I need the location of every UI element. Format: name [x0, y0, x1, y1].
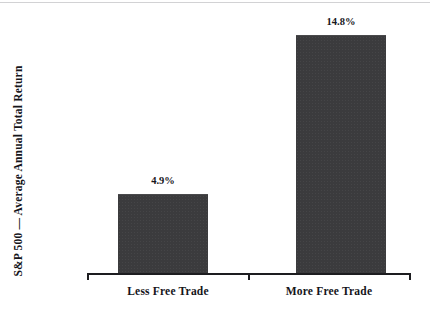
bar-value-label-less-free-trade: 4.9% [118, 175, 208, 186]
bar-more-free-trade [296, 35, 386, 274]
x-axis-tick-middle [248, 273, 250, 280]
x-axis-tick-left [87, 273, 89, 280]
bar-less-free-trade [118, 194, 208, 274]
x-axis-label-less-free-trade: Less Free Trade [88, 285, 248, 297]
bar-value-label-more-free-trade: 14.8% [296, 16, 386, 27]
x-axis-label-more-free-trade: More Free Trade [249, 285, 409, 297]
x-axis-tick-right [409, 273, 411, 280]
plot-area: 4.9% 14.8% Less Free Trade More Free Tra… [0, 0, 430, 315]
bar-chart-figure: S&P 500 — Average Annual Total Return 4.… [0, 0, 430, 315]
